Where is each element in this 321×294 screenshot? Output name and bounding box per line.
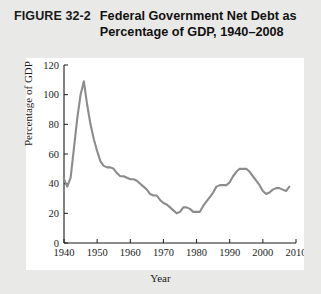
x-tick-label: 1980	[186, 247, 207, 258]
x-axis-label: Year	[0, 272, 321, 284]
y-tick-label: 40	[49, 178, 60, 189]
chart-plot-panel: 0204060801001201940195019601970198019902…	[26, 58, 304, 270]
x-tick-label: 1950	[87, 247, 108, 258]
figure-caption: FIGURE 32-2 Federal Government Net Debt …	[14, 9, 314, 40]
y-tick-label: 20	[49, 208, 60, 219]
x-tick-label: 1960	[120, 247, 141, 258]
x-tick-label: 1940	[54, 247, 75, 258]
chart-canvas: 0204060801001201940195019601970198019902…	[26, 58, 304, 270]
figure-title: Federal Government Net Debt as Percentag…	[100, 9, 305, 40]
y-tick-label: 60	[49, 149, 60, 160]
figure-number-label: FIGURE 32-2	[14, 9, 91, 23]
y-tick-label: 80	[49, 119, 60, 130]
data-series-line	[64, 81, 289, 213]
figure-root: FIGURE 32-2 Federal Government Net Debt …	[0, 0, 321, 294]
x-tick-label: 2010	[286, 247, 305, 258]
x-tick-label: 1990	[219, 247, 240, 258]
x-tick-label: 1970	[153, 247, 174, 258]
y-tick-label: 100	[43, 89, 59, 100]
y-tick-label: 120	[43, 60, 59, 71]
y-axis-label: Percentage of GDP	[22, 61, 34, 146]
x-tick-label: 2000	[252, 247, 273, 258]
